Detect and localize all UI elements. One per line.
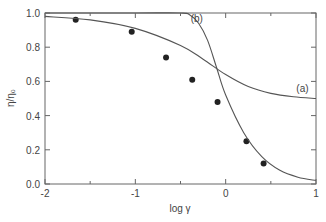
curve-b [45,13,316,181]
x-tick-label: 1 [313,188,319,199]
x-axis: -2-101 [41,13,320,199]
curve-label: (b) [191,13,203,24]
y-tick-label: 0.4 [26,111,40,122]
plot-area: (a)(b) [45,13,316,184]
data-point [163,54,169,60]
x-tick-label: -2 [41,188,50,199]
x-tick-label: -1 [131,188,140,199]
y-tick-label: 0.0 [26,179,40,190]
data-point [215,99,221,105]
x-axis-label: log γ [169,203,190,214]
curve-label: (a) [296,83,308,94]
curve-a [45,16,316,98]
y-tick-label: 1.0 [26,8,40,19]
y-tick-label: 0.2 [26,145,40,156]
chart: (a)(b) -2-101 0.00.20.40.60.81.0 log γ η… [0,0,326,222]
data-point [189,77,195,83]
data-point [129,29,135,35]
x-tick-label: 0 [223,188,229,199]
y-axis: 0.00.20.40.60.81.0 [26,8,316,190]
plot-frame [45,13,316,184]
y-tick-label: 0.6 [26,76,40,87]
y-tick-label: 0.8 [26,42,40,53]
y-axis-label: η/η₀ [5,89,16,107]
data-point [261,160,267,166]
